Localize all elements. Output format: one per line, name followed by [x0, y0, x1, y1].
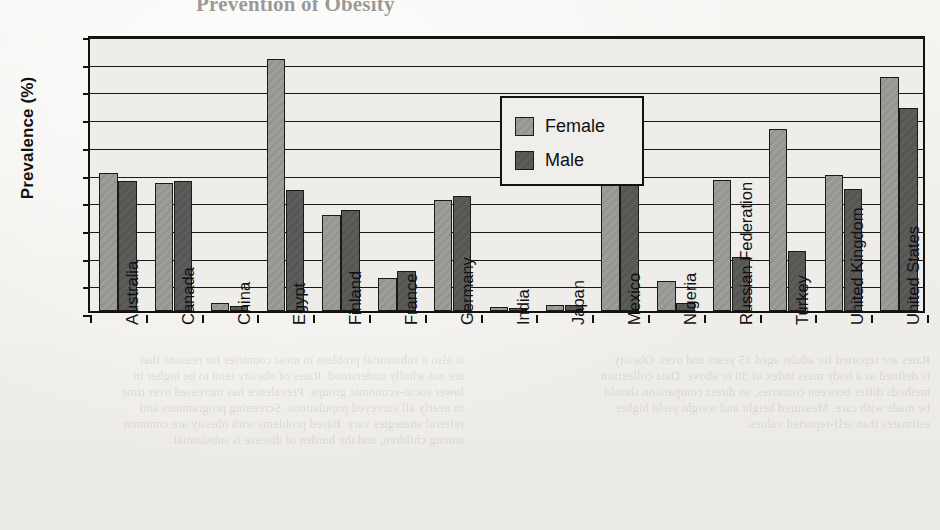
x-tick-mark: [257, 315, 259, 323]
y-tick-mark: [83, 287, 90, 289]
y-tick-mark: [83, 177, 90, 179]
x-category-label: Japan: [570, 280, 587, 325]
bar-female: [880, 77, 899, 311]
y-tick-mark: [83, 149, 90, 151]
y-tick-mark: [83, 204, 90, 206]
x-tick-mark: [369, 315, 371, 323]
x-tick-mark: [648, 315, 650, 323]
x-tick-mark: [202, 315, 204, 323]
bar-female: [211, 303, 230, 311]
legend-item-male: Male: [515, 143, 642, 177]
bar-female: [267, 59, 286, 311]
x-tick-mark: [313, 315, 315, 323]
legend: Female Male: [500, 96, 644, 186]
x-category-label: Finland: [347, 271, 364, 325]
bar-female: [155, 183, 174, 311]
bar-female: [322, 215, 341, 311]
x-category-label: Egypt: [291, 283, 308, 325]
x-category-label: Turkey: [794, 275, 811, 325]
x-tick-mark: [760, 315, 762, 323]
bar-female: [657, 281, 676, 311]
y-tick-mark: [83, 66, 90, 68]
x-category-label: Australia: [124, 261, 141, 325]
legend-swatch-male-icon: [515, 151, 534, 170]
y-tick-mark: [83, 315, 90, 317]
bar-female: [490, 307, 509, 311]
x-category-label: India: [515, 289, 532, 325]
legend-swatch-female-icon: [515, 117, 534, 136]
x-tick-mark: [425, 315, 427, 323]
x-category-label: Russian Federation: [738, 182, 755, 325]
bar-female: [769, 129, 788, 311]
x-tick-mark: [481, 315, 483, 323]
x-tick-mark: [592, 315, 594, 323]
x-tick-mark: [90, 315, 92, 323]
x-category-label: Canada: [180, 267, 197, 325]
plot-area: Female Male: [88, 36, 925, 313]
x-category-label: United States: [905, 226, 922, 325]
x-tick-mark: [704, 315, 706, 323]
x-category-label: France: [403, 274, 420, 325]
x-tick-mark: [536, 315, 538, 323]
bar-female: [434, 200, 453, 311]
y-tick-mark: [83, 260, 90, 262]
x-tick-mark: [927, 315, 929, 323]
bar-female: [378, 278, 397, 311]
legend-label-male: Male: [545, 150, 584, 171]
x-tick-mark: [815, 315, 817, 323]
x-category-label: United Kingdom: [849, 208, 866, 325]
bar-female: [99, 173, 118, 311]
legend-item-female: Female: [515, 109, 642, 143]
x-category-label: China: [236, 282, 253, 325]
bar-female: [546, 305, 565, 311]
x-category-label: Nigeria: [682, 273, 699, 325]
y-tick-mark: [83, 121, 90, 123]
y-tick-mark: [83, 38, 90, 40]
x-tick-mark: [146, 315, 148, 323]
x-category-label: Mexico: [626, 273, 643, 325]
x-tick-mark: [871, 315, 873, 323]
bar-chart: Prevalence (%) 05101520253035404550 Fema…: [0, 0, 940, 530]
y-tick-mark: [83, 232, 90, 234]
y-tick-mark: [83, 93, 90, 95]
x-category-label: Germany: [459, 257, 476, 325]
legend-label-female: Female: [545, 116, 605, 137]
bar-female: [713, 180, 732, 311]
bar-female: [825, 175, 844, 311]
y-axis-label: Prevalence (%): [18, 48, 38, 228]
